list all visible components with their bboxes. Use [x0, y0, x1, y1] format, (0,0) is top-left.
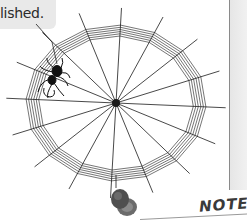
web-hub — [112, 99, 120, 107]
notebook-page: lished. NOT — [0, 0, 247, 224]
spider-web-illustration — [0, 0, 247, 224]
note-label: NOTE — [198, 194, 247, 215]
thumbtack-icon — [111, 175, 137, 216]
callout-line — [36, 24, 52, 42]
